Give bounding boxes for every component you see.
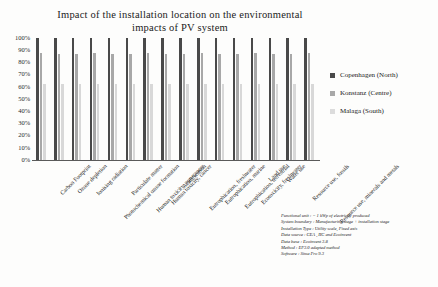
chart-legend: Copenhagen (North) Konstanz (Centre) Mal…: [330, 66, 436, 120]
bar-group: [126, 38, 136, 160]
bar[interactable]: [276, 84, 279, 160]
y-axis-tick-label: 90%: [2, 47, 30, 54]
bar[interactable]: [150, 84, 153, 160]
chart-footnote: Functional unit : = 1 kWp of electricity…: [281, 213, 437, 258]
legend-swatch-icon: [330, 91, 335, 96]
bar[interactable]: [290, 54, 293, 160]
legend-swatch-icon: [330, 109, 335, 114]
bar-group: [215, 38, 225, 160]
bar[interactable]: [201, 53, 204, 160]
bar[interactable]: [36, 38, 39, 160]
bar[interactable]: [97, 84, 100, 160]
bar[interactable]: [236, 54, 239, 160]
bar[interactable]: [93, 53, 96, 160]
chart-title-line-2: impacts of PV system: [46, 21, 314, 34]
bar[interactable]: [43, 84, 46, 160]
bar-group: [304, 38, 314, 160]
bar[interactable]: [269, 38, 272, 160]
y-axis-tick-label: 40%: [2, 108, 30, 115]
plot-area: [32, 38, 318, 160]
bar-group: [269, 38, 279, 160]
bar[interactable]: [286, 38, 289, 160]
legend-item-label: Malaga (South): [340, 107, 384, 115]
bar[interactable]: [40, 53, 43, 160]
bar[interactable]: [115, 84, 118, 160]
y-axis: 100%90%80%70%60%50%40%30%20%10%0%: [0, 38, 30, 160]
bar[interactable]: [54, 38, 57, 160]
bar[interactable]: [75, 54, 78, 160]
y-axis-tick-label: 100%: [2, 35, 30, 42]
bar[interactable]: [254, 53, 257, 160]
bar[interactable]: [183, 54, 186, 160]
bar[interactable]: [222, 84, 225, 160]
bar-group: [90, 38, 100, 160]
bar[interactable]: [126, 38, 129, 160]
bar-group: [233, 38, 243, 160]
bar-group: [54, 38, 64, 160]
y-axis-tick-label: 0%: [2, 157, 30, 164]
chart-title: Impact of the installation location on t…: [46, 8, 314, 34]
bar-group: [36, 38, 46, 160]
bar[interactable]: [90, 38, 93, 160]
bar[interactable]: [218, 54, 221, 160]
bar-group: [161, 38, 171, 160]
bar[interactable]: [233, 38, 236, 160]
legend-item-label: Konstanz (Centre): [340, 89, 392, 97]
bar[interactable]: [179, 38, 182, 160]
bar[interactable]: [143, 38, 146, 160]
legend-item-malaga[interactable]: Malaga (South): [330, 102, 436, 120]
bar[interactable]: [272, 54, 275, 160]
bar[interactable]: [204, 84, 207, 160]
bar-group: [108, 38, 118, 160]
bar[interactable]: [129, 54, 132, 160]
bar[interactable]: [111, 54, 114, 160]
bar-group: [72, 38, 82, 160]
y-axis-tick-label: 20%: [2, 132, 30, 139]
chart-container: Impact of the installation location on t…: [0, 0, 438, 287]
y-axis-tick-label: 70%: [2, 71, 30, 78]
bar[interactable]: [72, 38, 75, 160]
bar-group: [197, 38, 207, 160]
bar[interactable]: [147, 53, 150, 160]
bar-group: [251, 38, 261, 160]
bar[interactable]: [186, 84, 189, 160]
y-axis-tick-label: 50%: [2, 96, 30, 103]
chart-title-line-1: Impact of the installation location on t…: [46, 8, 314, 21]
bar[interactable]: [308, 53, 311, 160]
y-axis-tick-label: 30%: [2, 120, 30, 127]
y-axis-tick-label: 60%: [2, 84, 30, 91]
footnote-line: Software : Sima Pro 9.3: [281, 251, 437, 257]
bar[interactable]: [197, 38, 200, 160]
bar[interactable]: [168, 84, 171, 160]
legend-item-copenhagen[interactable]: Copenhagen (North): [330, 66, 436, 84]
bar[interactable]: [311, 84, 314, 160]
bar[interactable]: [133, 84, 136, 160]
bar[interactable]: [215, 38, 218, 160]
bar[interactable]: [79, 84, 82, 160]
y-axis-tick-label: 10%: [2, 145, 30, 152]
bar[interactable]: [293, 84, 296, 160]
legend-item-konstanz[interactable]: Konstanz (Centre): [330, 84, 436, 102]
bar[interactable]: [240, 84, 243, 160]
bar[interactable]: [161, 38, 164, 160]
y-axis-tick-label: 80%: [2, 59, 30, 66]
bar[interactable]: [58, 54, 61, 160]
bar[interactable]: [108, 38, 111, 160]
bar[interactable]: [258, 84, 261, 160]
x-axis-tick-label: Resource use, fossils: [312, 163, 351, 202]
bar[interactable]: [304, 38, 307, 160]
legend-swatch-icon: [330, 73, 335, 78]
bar-group: [286, 38, 296, 160]
bar[interactable]: [251, 38, 254, 160]
bar[interactable]: [165, 54, 168, 160]
bar-group: [143, 38, 153, 160]
bar[interactable]: [61, 84, 64, 160]
legend-item-label: Copenhagen (North): [340, 71, 398, 79]
bar-group: [179, 38, 189, 160]
